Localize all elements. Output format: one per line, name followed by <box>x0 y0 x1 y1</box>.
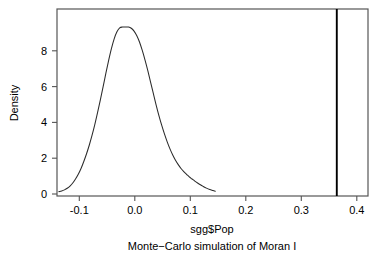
plot-panel-background <box>57 9 368 196</box>
y-tick-label-2: 2 <box>41 152 47 164</box>
y-axis-title: Density <box>8 84 20 121</box>
x-tick-label-01: 0.1 <box>183 204 198 216</box>
y-axis-tick-labels: 0 2 4 6 8 <box>41 45 47 200</box>
y-axis-ticks <box>52 51 57 194</box>
x-axis-ticks <box>79 196 357 201</box>
density-plot-container: 0 2 4 6 8 -0.1 0.0 0.1 0.2 0.3 0.4 <box>0 0 390 264</box>
x-tick-label-n01: -0.1 <box>70 204 89 216</box>
plot-subtitle: Monte−Carlo simulation of Moran I <box>128 240 296 252</box>
x-tick-label-02: 0.2 <box>238 204 253 216</box>
x-tick-label-03: 0.3 <box>294 204 309 216</box>
y-tick-label-6: 6 <box>41 81 47 93</box>
x-tick-label-00: 0.0 <box>127 204 142 216</box>
x-axis-tick-labels: -0.1 0.0 0.1 0.2 0.3 0.4 <box>70 204 365 216</box>
x-tick-label-04: 0.4 <box>349 204 364 216</box>
plot-canvas: 0 2 4 6 8 -0.1 0.0 0.1 0.2 0.3 0.4 <box>0 0 390 264</box>
x-axis-title: sgg$Pop <box>190 223 233 235</box>
y-tick-label-8: 8 <box>41 45 47 57</box>
y-tick-label-0: 0 <box>41 188 47 200</box>
y-tick-label-4: 4 <box>41 116 47 128</box>
